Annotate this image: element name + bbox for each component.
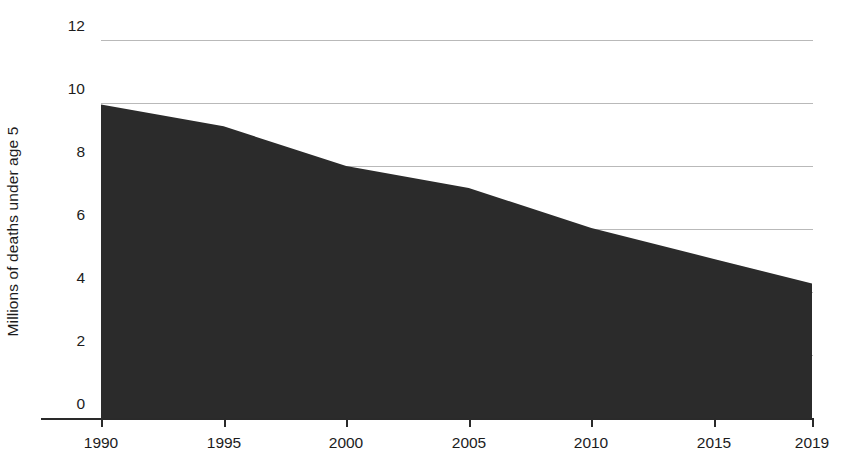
- area-series: [0, 0, 849, 463]
- area-fill: [101, 105, 812, 418]
- chart-container: Millions of deaths under age 5 024681012…: [0, 0, 849, 463]
- plot-area: 0246810121990199520002005201020152019: [0, 0, 849, 463]
